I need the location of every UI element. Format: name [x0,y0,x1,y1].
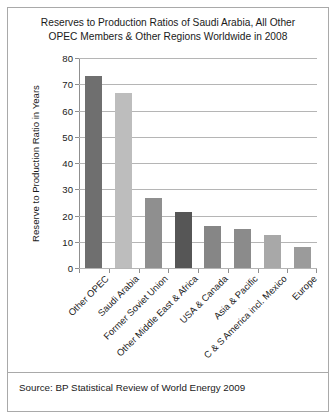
bar [115,93,132,268]
y-axis-tick-mark [75,242,79,243]
gridline [79,58,317,59]
y-axis-tick-label: 60 [62,105,73,116]
chart-title-line-1: Reserves to Production Ratios of Saudi A… [20,16,316,30]
x-axis-tick-labels: Other OPECSaudi ArabiaFormer Soviet Unio… [79,273,317,373]
y-axis-tick-label: 70 [62,79,73,90]
bar [145,198,162,268]
y-axis-tick-mark [75,216,79,217]
bar [175,212,192,268]
y-axis-tick-mark [75,111,79,112]
chart-title: Reserves to Production Ratios of Saudi A… [20,16,316,43]
y-axis-tick-label: 80 [62,53,73,64]
y-axis-tick-label: 20 [62,210,73,221]
x-axis-tick-label: Europe [290,273,319,302]
gridline [79,84,317,85]
y-axis-tick-mark [75,58,79,59]
chart-figure: Reserves to Production Ratios of Saudi A… [7,7,329,412]
y-axis-tick-label: 10 [62,236,73,247]
bar [85,76,102,268]
bar [294,247,311,268]
y-axis-tick-mark [75,84,79,85]
footer-divider [8,372,328,373]
plot-area: 01020304050607080 [79,58,317,269]
y-axis-tick-mark [75,137,79,138]
y-axis-title: Reserve to Production Ratio in Years [30,74,41,254]
bar [234,229,251,268]
source-note: Source: BP Statistical Review of World E… [19,382,245,393]
y-axis-tick-label: 50 [62,131,73,142]
chart-title-line-2: OPEC Members & Other Regions Worldwide i… [20,30,316,44]
y-axis-tick-mark [75,163,79,164]
y-axis-tick-label: 0 [68,263,73,274]
bar [204,226,221,268]
y-axis-tick-mark [75,189,79,190]
y-axis-tick-label: 40 [62,158,73,169]
bar [264,235,281,268]
y-axis-tick-label: 30 [62,184,73,195]
